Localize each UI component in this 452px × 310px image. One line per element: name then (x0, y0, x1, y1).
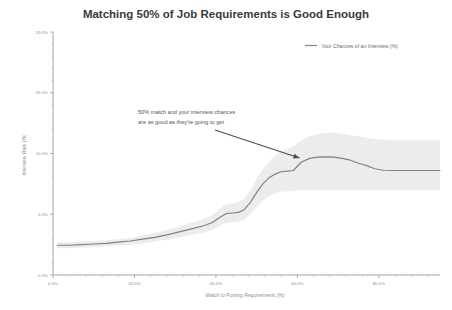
annotation-line-1: 50% match and your interview chances (138, 109, 236, 115)
y-axis-label: Interview Rate (%) (21, 134, 27, 175)
x-axis-tick-label: 40.0% (210, 281, 223, 286)
y-axis-tick-label: 0.0% (38, 273, 48, 278)
y-axis-tick-label: 5.0% (38, 212, 48, 217)
annotation-arrow (215, 130, 299, 158)
y-axis-tick-label: 20.0% (36, 30, 49, 35)
chart-title: Matching 50% of Job Requirements is Good… (83, 8, 369, 20)
interview-rate-line-chart: Matching 50% of Job Requirements is Good… (0, 0, 452, 310)
x-axis-tick-label: 20.0% (128, 281, 141, 286)
legend-label: Your Chances of an Interview (%) (321, 43, 398, 49)
x-axis-tick-label: 80.0% (373, 281, 386, 286)
confidence-band (57, 133, 440, 248)
plot-area (57, 133, 440, 248)
x-axis-tick-label: 0.0% (48, 281, 58, 286)
y-axis-tick-label: 15.0% (36, 90, 49, 95)
chart-annotation: 50% match and your interview chances are… (138, 109, 299, 158)
annotation-arrow-shaft (215, 130, 299, 158)
chart-container: Matching 50% of Job Requirements is Good… (0, 0, 452, 310)
chart-legend: Your Chances of an Interview (%) (305, 43, 398, 49)
x-axis-label: Match to Posting Requirements (%) (206, 292, 285, 298)
y-axis-tick-label: 10.0% (36, 151, 49, 156)
x-axis-tick-label: 60.0% (291, 281, 304, 286)
annotation-line-2: are as good as they're going to get (138, 119, 224, 125)
